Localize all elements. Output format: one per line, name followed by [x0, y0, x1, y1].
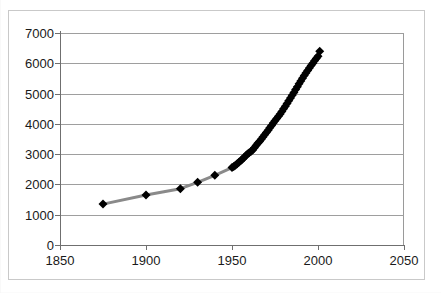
y-tick-2000 — [55, 184, 60, 185]
y-tick-label-4000: 4000 — [25, 118, 54, 131]
y-tick-label-7000: 7000 — [25, 27, 54, 40]
data-point-marker — [210, 171, 219, 180]
y-axis-line — [60, 31, 61, 247]
y-tick-1000 — [55, 215, 60, 216]
y-tick-7000 — [55, 33, 60, 34]
data-point-marker — [193, 178, 202, 187]
x-tick-label-1850: 1850 — [46, 254, 75, 267]
y-tick-5000 — [55, 94, 60, 95]
y-tick-4000 — [55, 124, 60, 125]
data-point-marker — [142, 191, 151, 200]
data-point-marker — [99, 200, 108, 209]
y-tick-label-2000: 2000 — [25, 178, 54, 191]
y-tick-3000 — [55, 154, 60, 155]
x-tick-2050 — [404, 245, 405, 250]
series-line-1 — [103, 51, 320, 204]
data-point-marker — [176, 184, 185, 193]
x-tick-1900 — [146, 245, 147, 250]
y-tick-label-5000: 5000 — [25, 88, 54, 101]
y-tick-label-0: 0 — [47, 239, 54, 252]
x-tick-2000 — [318, 245, 319, 250]
x-axis-tick-labels: 18501900195020002050 — [0, 254, 441, 274]
y-tick-6000 — [55, 63, 60, 64]
x-tick-1950 — [232, 245, 233, 250]
x-tick-label-1900: 1900 — [132, 254, 161, 267]
chart-container: 01000200030004000500060007000 1850190019… — [0, 0, 441, 293]
x-tick-label-2050: 2050 — [390, 254, 419, 267]
y-tick-label-6000: 6000 — [25, 57, 54, 70]
y-tick-label-3000: 3000 — [25, 148, 54, 161]
plot-area — [60, 33, 404, 245]
y-tick-label-1000: 1000 — [25, 209, 54, 222]
data-series-layer — [60, 33, 404, 245]
x-tick-label-2000: 2000 — [304, 254, 333, 267]
x-tick-label-1950: 1950 — [218, 254, 247, 267]
x-tick-1850 — [60, 245, 61, 250]
y-axis-tick-labels: 01000200030004000500060007000 — [0, 0, 54, 293]
